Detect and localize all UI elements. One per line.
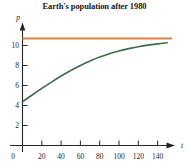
y-tick-label-8: 8 bbox=[15, 61, 19, 70]
x-tick-label-40: 40 bbox=[57, 152, 65, 161]
x-tick-label-80: 80 bbox=[96, 152, 104, 161]
x-tick-label-60: 60 bbox=[77, 152, 85, 161]
y-axis-ticks bbox=[23, 46, 28, 126]
x-axis-label: t bbox=[181, 141, 184, 150]
chart-plot-area: 10 8 6 4 2 0 20 40 60 80 100 120 140 bbox=[0, 0, 189, 168]
y-axis-arrowhead bbox=[20, 23, 26, 31]
population-chart-figure: Earth's population after 1980 10 8 6 4 2 bbox=[0, 0, 189, 168]
x-tick-label-120: 120 bbox=[133, 152, 145, 161]
x-axis-arrowhead bbox=[167, 142, 176, 148]
x-tick-label-20: 20 bbox=[38, 152, 46, 161]
x-axis-ticks bbox=[42, 141, 158, 146]
axis-lines bbox=[10, 23, 175, 153]
y-tick-label-6: 6 bbox=[15, 81, 19, 90]
y-axis-label: p bbox=[15, 13, 20, 22]
x-axis-tick-labels: 0 20 40 60 80 100 120 140 bbox=[11, 152, 163, 161]
x-tick-label-0: 0 bbox=[11, 152, 15, 161]
population-curve bbox=[23, 43, 168, 102]
y-tick-label-4: 4 bbox=[15, 101, 19, 110]
y-tick-label-2: 2 bbox=[15, 121, 19, 130]
y-tick-label-10: 10 bbox=[12, 41, 20, 50]
x-tick-label-100: 100 bbox=[113, 152, 125, 161]
y-axis-tick-labels: 10 8 6 4 2 bbox=[12, 41, 20, 130]
x-tick-label-140: 140 bbox=[152, 152, 164, 161]
data-series-group bbox=[23, 39, 173, 102]
